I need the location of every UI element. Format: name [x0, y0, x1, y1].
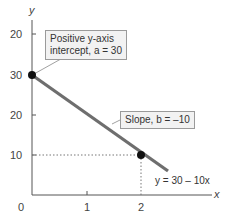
intercept-point — [28, 71, 36, 79]
x-tick-label: 2 — [138, 201, 144, 213]
y-tick-label: 20 — [10, 28, 22, 40]
y-axis-label: y — [28, 4, 36, 16]
origin-label: 0 — [18, 201, 24, 213]
y-tick-label: 10 — [10, 149, 22, 161]
y-tick-label: 20 — [10, 109, 22, 121]
x-axis-label: x — [213, 188, 220, 200]
equation-label: y = 30 – 10x — [155, 175, 210, 186]
slope-annotation: Slope, b = –10 — [120, 111, 195, 129]
intercept-annotation-line2: intercept, a = 30 — [50, 45, 122, 57]
y-tick-label: 30 — [10, 69, 22, 81]
intercept-annotation-line1: Positive y-axis — [50, 33, 122, 45]
intercept-annotation: Positive y-axis intercept, a = 30 — [45, 30, 127, 60]
x-tick-label: 1 — [84, 201, 90, 213]
slope-leader — [112, 120, 120, 124]
point-2-10 — [137, 151, 145, 159]
